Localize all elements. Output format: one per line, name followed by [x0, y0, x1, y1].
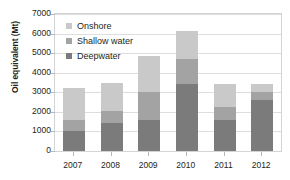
legend-item[interactable]: Onshore: [66, 18, 133, 33]
x-axis-tick-mark: [224, 152, 225, 156]
x-axis-tick-mark: [186, 152, 187, 156]
y-axis-tick-label: 7000: [11, 8, 51, 18]
bar-segment-onshore[interactable]: [138, 56, 160, 92]
x-axis-tick-label: 2008: [91, 160, 131, 170]
bar-segment-shallow-water[interactable]: [63, 120, 85, 132]
bar-group[interactable]: [251, 84, 273, 151]
legend-item-label: Shallow water: [77, 36, 133, 46]
y-axis-tick-mark: [51, 131, 55, 132]
bar-segment-deepwater[interactable]: [251, 100, 273, 151]
bar-segment-onshore[interactable]: [63, 88, 85, 119]
legend-item-label: Deepwater: [77, 51, 121, 61]
legend-item-label: Onshore: [77, 21, 112, 31]
x-axis-tick-label: 2012: [241, 160, 281, 170]
y-axis-tick-label: 2000: [11, 106, 51, 116]
y-axis-tick-label: 3000: [11, 86, 51, 96]
y-axis-tick-mark: [51, 73, 55, 74]
y-axis-tick-mark: [51, 53, 55, 54]
x-axis-tick-label: 2009: [128, 160, 168, 170]
bar-segment-onshore[interactable]: [214, 84, 236, 106]
y-axis-tick-mark: [51, 112, 55, 113]
bar-segment-shallow-water[interactable]: [214, 107, 236, 121]
y-axis-tick-mark: [51, 34, 55, 35]
x-axis-tick-mark: [148, 152, 149, 156]
legend-swatch-icon: [66, 38, 72, 44]
x-axis-tick-label: 2011: [204, 160, 244, 170]
bar-segment-deepwater[interactable]: [101, 123, 123, 151]
y-axis-tick-label: 1000: [11, 125, 51, 135]
bar-segment-shallow-water[interactable]: [251, 92, 273, 100]
x-axis-tick-mark: [261, 152, 262, 156]
bar-segment-onshore[interactable]: [251, 84, 273, 92]
x-axis-tick-mark: [73, 152, 74, 156]
bar-segment-shallow-water[interactable]: [138, 92, 160, 120]
x-axis-tick-label: 2010: [166, 160, 206, 170]
legend-swatch-icon: [66, 53, 72, 59]
x-axis-tick-label: 2007: [53, 160, 93, 170]
y-axis-tick-label: 0: [11, 145, 51, 155]
bar-group[interactable]: [101, 83, 123, 151]
bar-segment-deepwater[interactable]: [63, 131, 85, 151]
y-axis-tick-mark: [51, 14, 55, 15]
y-axis-tick-label: 5000: [11, 47, 51, 57]
y-axis-tick-mark: [51, 151, 55, 152]
chart-legend: OnshoreShallow waterDeepwater: [66, 18, 133, 63]
legend-swatch-icon: [66, 23, 72, 29]
legend-item[interactable]: Shallow water: [66, 33, 133, 48]
x-axis-tick-mark: [111, 152, 112, 156]
y-axis-tick-mark: [51, 92, 55, 93]
bar-segment-shallow-water[interactable]: [101, 111, 123, 123]
bar-group[interactable]: [138, 56, 160, 151]
bar-segment-shallow-water[interactable]: [176, 59, 198, 84]
bar-segment-onshore[interactable]: [176, 31, 198, 59]
stacked-bar-chart: Oil equivalent (Mt) 01000200030004000500…: [0, 0, 290, 180]
bar-group[interactable]: [214, 84, 236, 151]
bar-segment-onshore[interactable]: [101, 83, 123, 111]
bar-group[interactable]: [176, 31, 198, 151]
y-axis-tick-label: 4000: [11, 67, 51, 77]
bar-group[interactable]: [63, 88, 85, 151]
legend-item[interactable]: Deepwater: [66, 48, 133, 63]
bar-segment-deepwater[interactable]: [176, 84, 198, 151]
bar-segment-deepwater[interactable]: [214, 120, 236, 151]
bar-segment-deepwater[interactable]: [138, 120, 160, 151]
y-axis-tick-label: 6000: [11, 28, 51, 38]
